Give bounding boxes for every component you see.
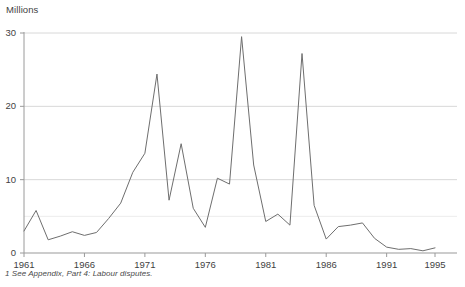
x-tick-label-1976: 1976 bbox=[185, 259, 225, 270]
x-tick-label-1986: 1986 bbox=[306, 259, 346, 270]
gridlines-group bbox=[24, 33, 457, 216]
tick-marks-group bbox=[20, 33, 435, 257]
axes-group bbox=[24, 32, 457, 253]
line-chart-plot bbox=[0, 0, 465, 287]
y-tick-label-0: 0 bbox=[0, 247, 16, 258]
x-tick-label-1995: 1995 bbox=[415, 259, 455, 270]
x-tick-label-1981: 1981 bbox=[246, 259, 286, 270]
data-series-line bbox=[24, 37, 435, 251]
y-tick-label-20: 20 bbox=[0, 100, 16, 111]
y-tick-label-30: 30 bbox=[0, 27, 16, 38]
x-tick-label-1991: 1991 bbox=[367, 259, 407, 270]
chart-footnote: 1 See Appendix, Part 4: Labour disputes. bbox=[5, 269, 153, 278]
y-tick-label-10: 10 bbox=[0, 174, 16, 185]
chart-figure: Millions 0102030 19611966197119761981198… bbox=[0, 0, 465, 287]
